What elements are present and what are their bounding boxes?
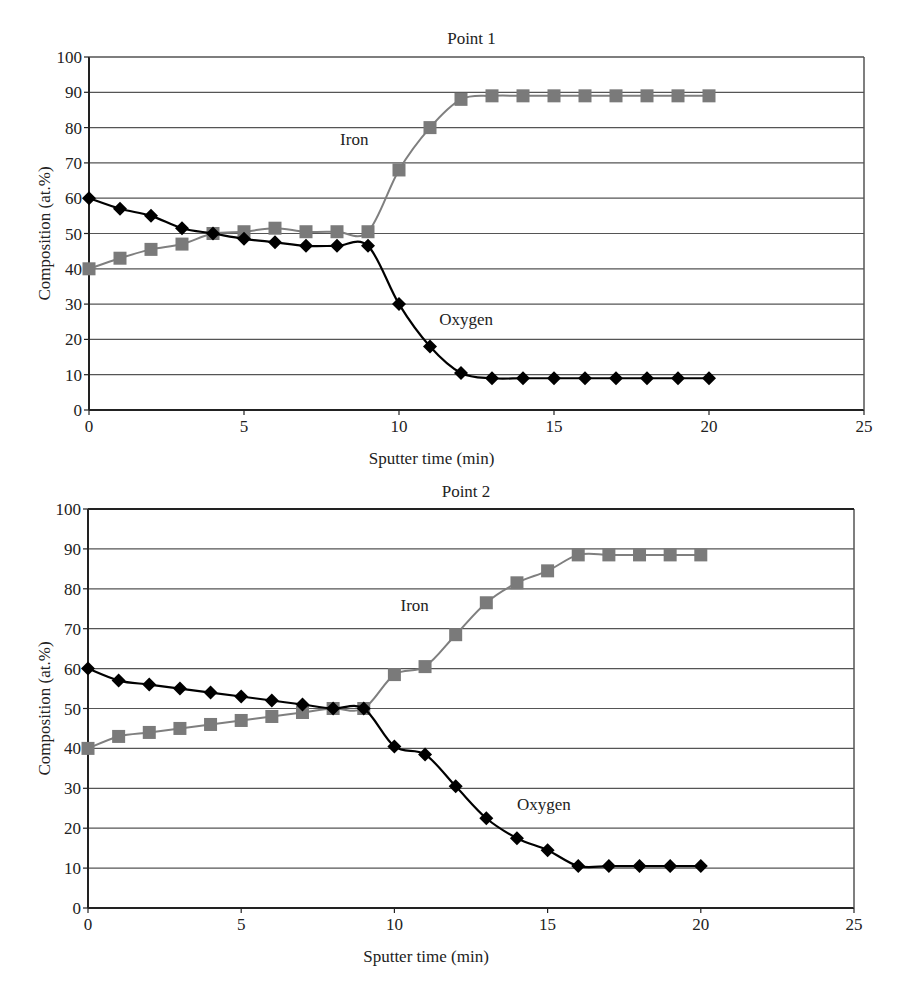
square-marker	[703, 89, 716, 102]
square-marker	[83, 262, 96, 275]
diamond-marker	[112, 674, 126, 688]
square-marker	[424, 121, 437, 134]
diamond-marker	[485, 371, 499, 385]
diamond-marker	[299, 239, 313, 253]
square-marker	[269, 222, 282, 235]
x-axis-label: Sputter time (min)	[369, 449, 495, 468]
y-tick-label: 40	[65, 260, 82, 279]
diamond-marker	[663, 859, 677, 873]
x-tick-label: 5	[240, 417, 249, 436]
square-marker	[610, 89, 623, 102]
square-marker	[362, 225, 375, 238]
diamond-marker	[204, 686, 218, 700]
square-marker	[235, 714, 248, 727]
y-tick-label: 0	[74, 401, 83, 420]
y-tick-label: 60	[64, 660, 81, 679]
y-tick-label: 50	[64, 700, 81, 719]
diamond-marker	[265, 694, 279, 708]
x-tick-label: 15	[539, 915, 556, 934]
square-marker	[602, 548, 615, 561]
y-tick-label: 90	[65, 83, 82, 102]
y-tick-label: 60	[65, 189, 82, 208]
diamond-marker	[454, 366, 468, 380]
data-series	[82, 89, 716, 385]
diamond-marker	[142, 678, 156, 692]
square-marker	[388, 668, 401, 681]
y-tick-label: 20	[65, 330, 82, 349]
square-marker	[672, 89, 685, 102]
square-marker	[419, 660, 432, 673]
series-iron	[83, 89, 716, 275]
y-tick-label: 20	[64, 819, 81, 838]
gridlines	[89, 57, 864, 410]
x-tick-label: 25	[846, 915, 863, 934]
y-tick-label: 70	[64, 620, 81, 639]
y-tick-label: 50	[65, 225, 82, 244]
square-marker	[480, 596, 493, 609]
diamond-marker	[330, 239, 344, 253]
x-tick-label: 0	[84, 915, 93, 934]
square-marker	[204, 718, 217, 731]
chart-point-1: Point 1 0102030405060708090100 051015202…	[35, 29, 873, 468]
annotation-oxygen: Oxygen	[439, 310, 493, 329]
x-axis-label: Sputter time (min)	[363, 947, 489, 966]
diamond-marker	[81, 662, 95, 676]
square-marker	[455, 93, 468, 106]
x-tick-label: 25	[856, 417, 873, 436]
chart-title: Point 2	[442, 482, 491, 501]
square-marker	[449, 628, 462, 641]
diamond-marker	[392, 297, 406, 311]
diamond-marker	[268, 235, 282, 249]
y-tick-label: 100	[57, 48, 83, 67]
series-oxygen	[82, 191, 716, 385]
square-marker	[331, 225, 344, 238]
x-tick-label: 20	[701, 417, 718, 436]
x-axis-ticks: 0510152025	[84, 908, 863, 934]
diamond-marker	[694, 859, 708, 873]
diamond-marker	[173, 682, 187, 696]
square-marker	[548, 89, 561, 102]
y-tick-label: 70	[65, 154, 82, 173]
annotation-iron: Iron	[401, 596, 430, 615]
square-marker	[393, 163, 406, 176]
x-tick-label: 0	[85, 417, 94, 436]
y-tick-label: 30	[65, 295, 82, 314]
diamond-marker	[82, 191, 96, 205]
square-marker	[641, 89, 654, 102]
x-tick-label: 10	[386, 915, 403, 934]
square-marker	[579, 89, 592, 102]
square-marker	[173, 722, 186, 735]
y-tick-label: 80	[65, 119, 82, 138]
square-marker	[114, 252, 127, 265]
diamond-marker	[234, 690, 248, 704]
x-tick-label: 5	[237, 915, 246, 934]
y-axis-ticks: 0102030405060708090100	[56, 500, 89, 918]
diamond-marker	[113, 202, 127, 216]
square-marker	[112, 730, 125, 743]
diamond-marker	[702, 371, 716, 385]
square-marker	[486, 89, 499, 102]
diamond-marker	[571, 859, 585, 873]
y-tick-label: 90	[64, 540, 81, 559]
square-marker	[664, 548, 677, 561]
figure: Point 1 0102030405060708090100 051015202…	[0, 0, 899, 991]
square-marker	[265, 710, 278, 723]
x-tick-label: 15	[546, 417, 563, 436]
diamond-marker	[510, 831, 524, 845]
x-axis-ticks: 0510152025	[85, 410, 873, 436]
x-tick-label: 20	[692, 915, 709, 934]
y-axis-ticks: 0102030405060708090100	[57, 48, 90, 420]
diamond-marker	[609, 371, 623, 385]
y-tick-label: 30	[64, 779, 81, 798]
square-marker	[510, 576, 523, 589]
square-marker	[633, 548, 646, 561]
y-tick-label: 10	[65, 366, 82, 385]
chart-title: Point 1	[447, 29, 496, 48]
y-tick-label: 0	[73, 899, 82, 918]
square-marker	[176, 238, 189, 251]
square-marker	[572, 548, 585, 561]
square-marker	[517, 89, 530, 102]
square-marker	[694, 548, 707, 561]
y-tick-label: 10	[64, 859, 81, 878]
series-iron	[82, 548, 708, 755]
